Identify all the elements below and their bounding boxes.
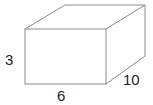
top-face bbox=[25, 5, 145, 29]
box-diagram: 3 6 10 bbox=[0, 0, 153, 105]
width-label: 6 bbox=[57, 87, 65, 104]
depth-label: 10 bbox=[123, 71, 140, 88]
height-label: 3 bbox=[5, 51, 13, 68]
front-face bbox=[25, 29, 106, 84]
